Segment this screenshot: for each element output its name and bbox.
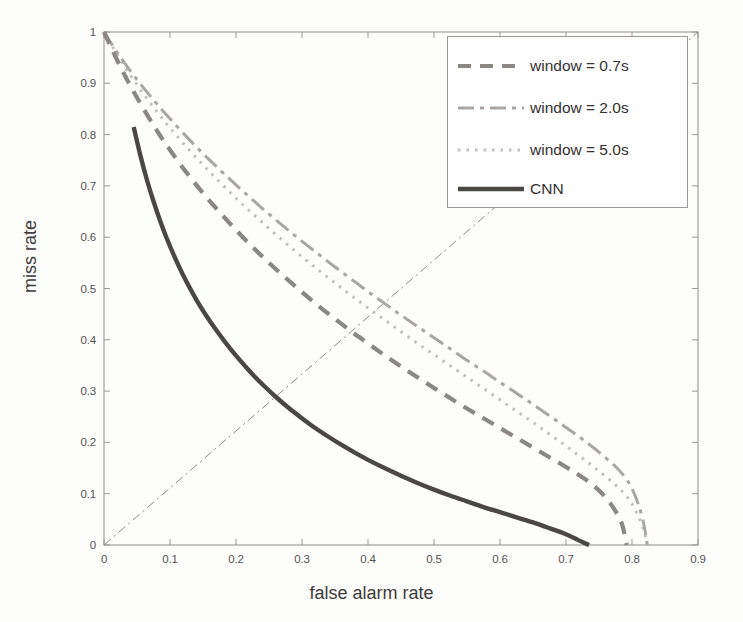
legend-item-window-0-7s: window = 0.7s (458, 53, 629, 79)
solid-line-swatch (458, 182, 524, 196)
legend-item-window-5-0s: window = 5.0s (458, 137, 629, 163)
x-tick-label: 0.5 (426, 553, 441, 565)
y-tick-label: 0.7 (56, 180, 96, 192)
dashed-line-swatch (458, 59, 524, 73)
y-tick-label: 0 (56, 539, 96, 551)
chart-legend: window = 0.7swindow = 2.0swindow = 5.0sC… (447, 36, 688, 208)
y-tick-label: 0.5 (56, 283, 96, 295)
x-tick-label: 0.2 (228, 553, 243, 565)
y-tick-label: 1 (56, 26, 96, 38)
legend-label: window = 0.7s (530, 57, 629, 75)
y-axis-label: miss rate (20, 177, 41, 337)
legend-label: window = 2.0s (530, 99, 629, 117)
y-tick-label: 0.3 (56, 385, 96, 397)
y-tick-label: 0.1 (56, 488, 96, 500)
dash-dot-line-swatch (458, 101, 524, 115)
y-tick-label: 0.6 (56, 231, 96, 243)
x-tick-label: 0.8 (624, 553, 639, 565)
x-tick-label: 0.1 (162, 553, 177, 565)
legend-label: window = 5.0s (530, 141, 629, 159)
legend-label: CNN (530, 180, 564, 198)
y-tick-label: 0.9 (56, 77, 96, 89)
y-tick-label: 0.2 (56, 436, 96, 448)
chart-figure: 00.10.20.30.40.50.60.70.80.900.10.20.30.… (0, 0, 743, 622)
x-tick-label: 0.9 (690, 553, 705, 565)
x-tick-label: 0.7 (558, 553, 573, 565)
x-tick-label: 0.3 (294, 553, 309, 565)
legend-item-cnn: CNN (458, 176, 564, 202)
dotted-line-swatch (458, 143, 524, 157)
y-tick-label: 0.4 (56, 334, 96, 346)
y-tick-label: 0.8 (56, 129, 96, 141)
x-tick-label: 0.6 (492, 553, 507, 565)
legend-item-window-2-0s: window = 2.0s (458, 95, 629, 121)
x-tick-label: 0 (101, 553, 107, 565)
x-axis-label: false alarm rate (0, 583, 743, 604)
x-tick-label: 0.4 (360, 553, 375, 565)
